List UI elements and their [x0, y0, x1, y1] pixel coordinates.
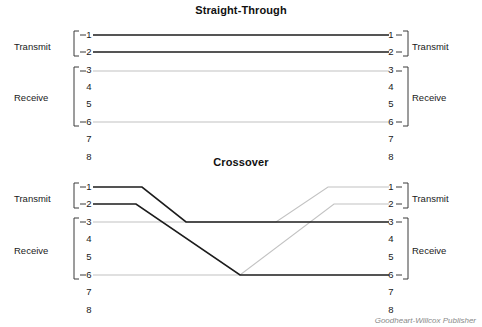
st-left-pin-3: 3 [83, 64, 95, 75]
st-right-pin-1: 1 [385, 29, 397, 40]
co-left-pin-1: 1 [83, 181, 95, 192]
co-left-pin-8: 8 [83, 304, 95, 315]
publisher-credit: Goodheart-Willcox Publisher [375, 316, 476, 325]
co-right-receive-label: Receive [412, 245, 446, 256]
co-right-transmit-label: Transmit [412, 193, 449, 204]
st-left-pin-6: 6 [83, 116, 95, 127]
co-right-pin-4: 4 [385, 233, 397, 244]
co-left-pin-6: 6 [83, 269, 95, 280]
st-left-pin-8: 8 [83, 151, 95, 162]
straight-through-diagram [74, 31, 408, 126]
co-right-pin-8: 8 [385, 304, 397, 315]
co-wire-2-to-6 [93, 204, 389, 275]
co-right-pin-5: 5 [385, 251, 397, 262]
st-right-pin-8: 8 [385, 151, 397, 162]
st-right-pin-7: 7 [385, 133, 397, 144]
st-left-receive-bracket [74, 67, 79, 126]
st-right-pin-6: 6 [385, 116, 397, 127]
st-right-pin-4: 4 [385, 81, 397, 92]
co-wire-6-to-2 [93, 204, 389, 275]
co-left-pin-5: 5 [83, 251, 95, 262]
co-left-pin-7: 7 [83, 286, 95, 297]
co-right-transmit-bracket [403, 183, 408, 208]
st-right-receive-bracket [403, 67, 408, 126]
st-right-transmit-bracket [403, 31, 408, 56]
st-left-pin-5: 5 [83, 98, 95, 109]
st-left-receive-label: Receive [14, 92, 48, 103]
st-right-pin-5: 5 [385, 98, 397, 109]
crossover-diagram [74, 183, 408, 279]
wiring-svg [0, 0, 482, 327]
co-right-pin-6: 6 [385, 269, 397, 280]
st-right-receive-label: Receive [412, 92, 446, 103]
st-left-pin-7: 7 [83, 133, 95, 144]
co-right-pin-7: 7 [385, 286, 397, 297]
co-right-receive-bracket [403, 218, 408, 279]
st-right-pin-3: 3 [385, 64, 397, 75]
cable-pinout-figure: Straight-Through Crossover [0, 0, 482, 327]
st-right-transmit-label: Transmit [412, 41, 449, 52]
co-right-pin-2: 2 [385, 198, 397, 209]
co-right-pin-3: 3 [385, 216, 397, 227]
co-left-receive-label: Receive [14, 245, 48, 256]
st-left-transmit-bracket [74, 31, 79, 56]
co-right-pin-1: 1 [385, 181, 397, 192]
co-left-pin-4: 4 [83, 233, 95, 244]
co-left-transmit-label: Transmit [14, 193, 51, 204]
co-left-pin-3: 3 [83, 216, 95, 227]
st-left-pin-2: 2 [83, 46, 95, 57]
st-right-pin-2: 2 [385, 46, 397, 57]
st-left-pin-4: 4 [83, 81, 95, 92]
co-left-transmit-bracket [74, 183, 79, 208]
st-left-transmit-label: Transmit [14, 41, 51, 52]
st-left-pin-1: 1 [83, 29, 95, 40]
co-left-receive-bracket [74, 218, 79, 279]
co-left-pin-2: 2 [83, 198, 95, 209]
